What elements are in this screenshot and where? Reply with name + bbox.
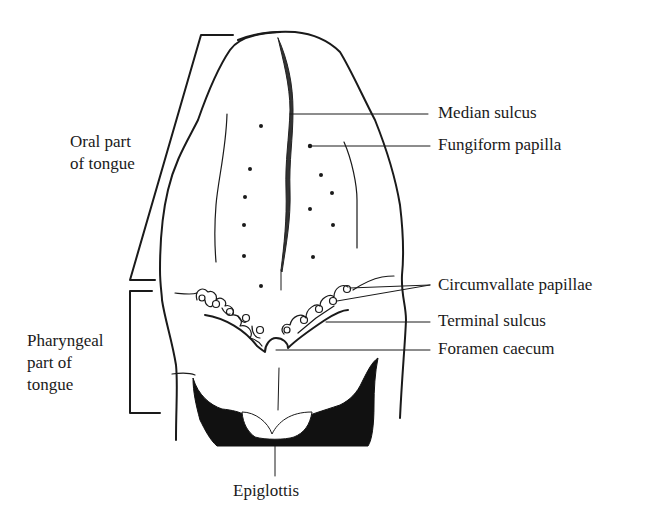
label-pharyngeal-part-line2: part of [27, 352, 103, 374]
lateral-contour-left [215, 114, 227, 262]
label-oral-part-line2: of tongue [70, 153, 135, 175]
label-median-sulcus: Median sulcus [438, 102, 537, 124]
circumvallate-papillae-right [282, 276, 394, 334]
pharyngeal-part-bracket [130, 291, 160, 413]
label-pharyngeal-part-line3: tongue [27, 374, 103, 396]
label-epiglottis: Epiglottis [233, 480, 299, 502]
lateral-contour-right [344, 142, 357, 248]
label-terminal-sulcus: Terminal sulcus [438, 310, 546, 332]
terminal-sulcus [205, 310, 348, 352]
median-sulcus [278, 38, 293, 272]
label-oral-part-line1: Oral part [70, 131, 135, 153]
tongue-diagram [0, 0, 654, 521]
label-fungiform-papilla: Fungiform papilla [438, 134, 561, 156]
label-pharyngeal-part: Pharyngeal part of tongue [27, 330, 103, 396]
tongue-outline-left [160, 32, 280, 440]
leader-circumvallate-2 [337, 285, 430, 301]
label-pharyngeal-part-line1: Pharyngeal [27, 330, 103, 352]
label-circumvallate-papillae: Circumvallate papillae [438, 274, 592, 296]
label-oral-part: Oral part of tongue [70, 131, 135, 175]
tongue-outline-right [238, 32, 406, 418]
edge-left [172, 373, 195, 375]
label-foramen-caecum: Foramen caecum [438, 338, 555, 360]
midline-pharyngeal [278, 368, 279, 410]
